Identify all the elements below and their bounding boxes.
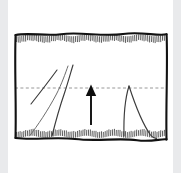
arrow-head-icon [86,85,96,97]
sketch-canvas [8,0,173,173]
left-steep-rising-curve [52,65,73,136]
right-spike-rising-edge [124,86,129,136]
right-border-line [166,34,167,139]
figure-root [0,0,181,173]
bottom-wall-line [16,138,167,141]
left-margin-strip [0,0,8,173]
upward-arrow [86,85,96,126]
upper-left-straight-segment [31,70,57,104]
right-margin-strip [173,0,181,173]
bottom-hatch-group [16,129,164,138]
left-border-line [15,35,16,138]
sketch-svg [8,0,173,173]
right-spike-falling-edge [129,86,157,138]
